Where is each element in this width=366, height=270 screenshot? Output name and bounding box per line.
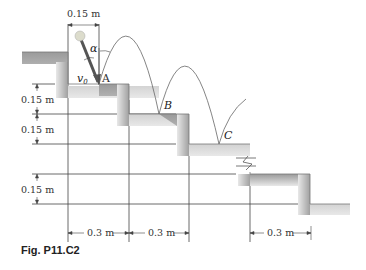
vertical-dim-3: 0.15 m: [21, 184, 54, 195]
staircase: [22, 52, 350, 215]
grid-lines: [32, 24, 298, 242]
stair-diagram: α v0 A B C 0.15 m 0.15 m 0.15 m 0.15 m 0…: [0, 0, 366, 270]
angle-label: α: [90, 42, 98, 55]
point-b-label: B: [163, 99, 172, 112]
velocity-label: v0: [77, 72, 88, 86]
top-dimension-label: 0.15 m: [67, 8, 100, 19]
horizontal-dim-3: 0.3 m: [267, 227, 294, 238]
point-a-label: A: [101, 72, 111, 85]
vertical-dim-1: 0.15 m: [21, 94, 54, 105]
break-symbol: [236, 156, 258, 170]
figure-caption: Fig. P11.C2: [21, 244, 80, 256]
horizontal-dim-2: 0.3 m: [148, 227, 175, 238]
vertical-dim-2: 0.15 m: [21, 124, 54, 135]
point-c-label: C: [224, 129, 233, 142]
horizontal-dim-1: 0.3 m: [87, 227, 114, 238]
top-dimension: [68, 24, 99, 27]
